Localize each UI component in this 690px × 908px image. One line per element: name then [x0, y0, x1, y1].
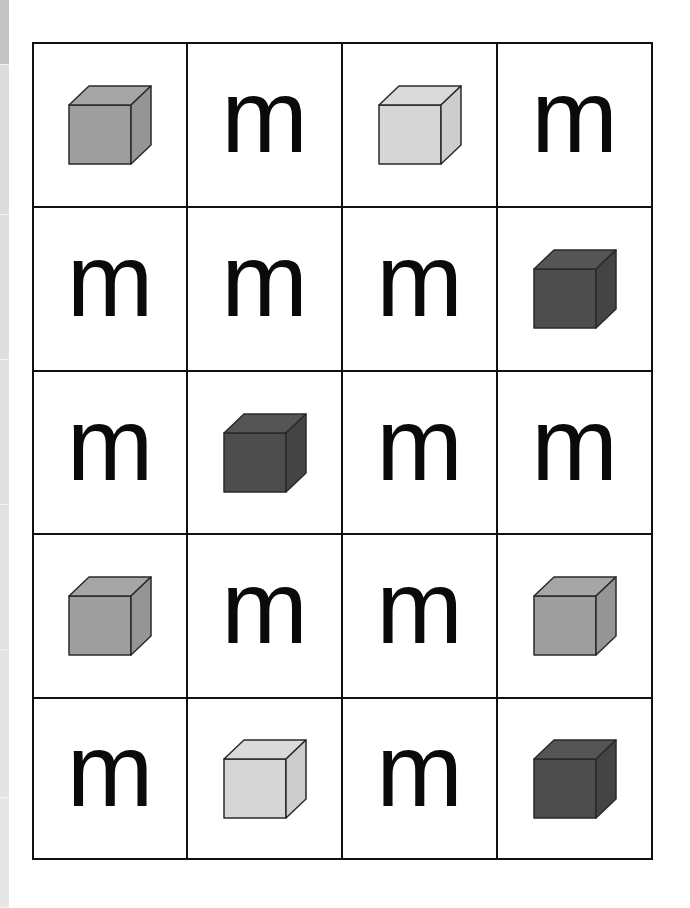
letter-m: m — [531, 64, 618, 168]
edge-strip-segment — [0, 360, 9, 505]
grid-cell[interactable]: m — [188, 44, 343, 208]
cube-icon-medium — [532, 575, 618, 657]
letter-m: m — [221, 228, 308, 332]
cube-icon-medium — [67, 84, 153, 166]
grid-cell[interactable]: m — [343, 699, 498, 858]
edge-strip-segment — [0, 65, 9, 215]
cube-icon-medium — [67, 575, 153, 657]
edge-strip-segment — [0, 0, 9, 65]
letter-m: m — [67, 392, 154, 496]
edge-strip-segment — [0, 798, 9, 908]
grid-cell[interactable] — [188, 699, 343, 858]
grid-cell[interactable] — [498, 699, 651, 858]
letter-m: m — [221, 64, 308, 168]
letter-m: m — [67, 228, 154, 332]
card-grid: mmmmmmmmmmmm — [32, 42, 653, 860]
cube-icon-light — [377, 84, 463, 166]
cube-icon-dark — [532, 248, 618, 330]
letter-m: m — [376, 392, 463, 496]
grid-cell[interactable] — [34, 535, 188, 699]
letter-m: m — [376, 718, 463, 822]
grid-cell[interactable]: m — [34, 699, 188, 858]
cube-icon-dark — [532, 738, 618, 820]
letter-m: m — [221, 555, 308, 659]
edge-strip-segment — [0, 650, 9, 798]
grid-cell[interactable]: m — [34, 372, 188, 535]
grid-cell[interactable]: m — [343, 535, 498, 699]
letter-m: m — [376, 555, 463, 659]
cube-icon-dark — [222, 412, 308, 494]
grid-cell[interactable]: m — [498, 44, 651, 208]
grid-cell[interactable] — [188, 372, 343, 535]
grid-cell[interactable]: m — [343, 208, 498, 372]
letter-m: m — [376, 228, 463, 332]
grid-cell[interactable] — [343, 44, 498, 208]
edge-strip-segment — [0, 215, 9, 360]
edge-strip-segment — [0, 505, 9, 650]
grid-cell[interactable]: m — [188, 208, 343, 372]
grid-cell[interactable]: m — [343, 372, 498, 535]
grid-cell[interactable] — [498, 535, 651, 699]
grid-cell[interactable] — [34, 44, 188, 208]
grid-cell[interactable]: m — [498, 372, 651, 535]
grid-cell[interactable]: m — [188, 535, 343, 699]
letter-m: m — [531, 392, 618, 496]
letter-m: m — [67, 718, 154, 822]
grid-cell[interactable]: m — [34, 208, 188, 372]
grid-cell[interactable] — [498, 208, 651, 372]
left-edge-strip — [0, 0, 9, 908]
cube-icon-light — [222, 738, 308, 820]
